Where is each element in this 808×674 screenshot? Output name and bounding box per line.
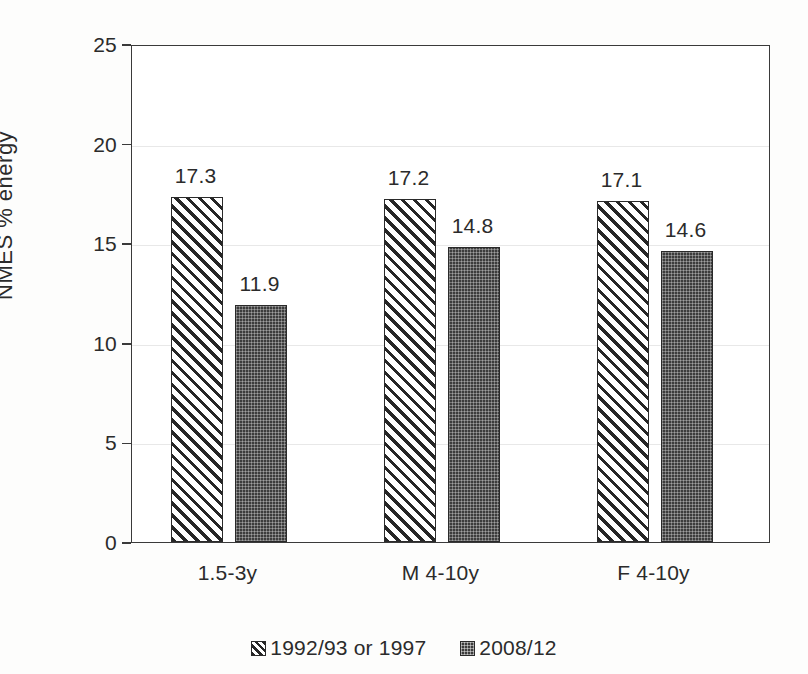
x-tick-label: F 4-10y (617, 561, 690, 585)
bar[interactable] (384, 199, 436, 542)
y-tick-mark (122, 243, 131, 245)
bar-value-label: 14.8 (452, 214, 494, 238)
y-tick-mark (122, 144, 131, 146)
bar[interactable] (597, 201, 649, 542)
legend-label: 1992/93 or 1997 (270, 636, 426, 660)
bar[interactable] (235, 305, 287, 542)
y-tick-label: 25 (71, 33, 117, 57)
y-tick-label: 15 (71, 232, 117, 256)
legend-entry[interactable]: 1992/93 or 1997 (251, 636, 426, 660)
gridline (132, 245, 769, 246)
y-tick-mark (122, 542, 131, 544)
chart-legend: 1992/93 or 19972008/12 (0, 636, 808, 660)
bar-value-label: 17.1 (601, 168, 643, 192)
legend-swatch-icon (460, 641, 475, 656)
bar[interactable] (171, 197, 223, 542)
y-tick-mark (122, 443, 131, 445)
y-tick-label: 5 (71, 431, 117, 455)
legend-label: 2008/12 (479, 636, 556, 660)
bar[interactable] (448, 247, 500, 542)
plot-area (131, 45, 770, 543)
bar-value-label: 14.6 (665, 218, 707, 242)
legend-entry[interactable]: 2008/12 (460, 636, 556, 660)
y-tick-label: 0 (71, 531, 117, 555)
x-tick-label: M 4-10y (402, 561, 479, 585)
y-tick-label: 20 (71, 133, 117, 157)
bar-value-label: 17.3 (175, 164, 217, 188)
bar-chart-figure: NMES % energy 0510152025 17.311.917.214.… (0, 0, 808, 674)
bar-value-label: 17.2 (388, 166, 430, 190)
y-tick-mark (122, 343, 131, 345)
legend-swatch-icon (251, 641, 266, 656)
bar[interactable] (661, 251, 713, 542)
y-axis-title: NMES % energy (0, 0, 18, 300)
gridline (132, 146, 769, 147)
y-tick-label: 10 (71, 332, 117, 356)
bar-value-label: 11.9 (239, 272, 279, 296)
y-tick-mark (122, 44, 131, 46)
x-tick-label: 1.5-3y (198, 561, 258, 585)
